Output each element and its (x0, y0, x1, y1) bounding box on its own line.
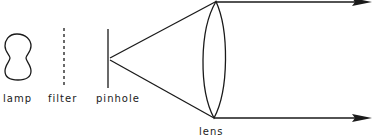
pinhole-label: pinhole (96, 93, 140, 105)
filter-label: filter (48, 93, 77, 105)
lamp-icon (5, 34, 31, 80)
diagram-graphics (0, 0, 376, 139)
lens-icon (203, 2, 226, 119)
arrowhead-top-icon (352, 0, 372, 6)
arrowhead-bottom-icon (352, 114, 372, 122)
ray-pinhole-to-lens-bottom (110, 60, 214, 118)
ray-pinhole-to-lens-top (110, 2, 216, 59)
lens-label: lens (199, 126, 223, 138)
lamp-label: lamp (3, 93, 32, 105)
optical-diagram: lamp filter pinhole lens (0, 0, 376, 139)
